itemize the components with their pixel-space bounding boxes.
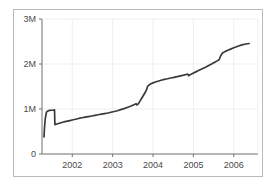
- chart-figure: 01M2M3M20022003200420052006: [0, 0, 277, 188]
- x-tick-label-2002: 2002: [62, 160, 82, 170]
- line-chart: 01M2M3M20022003200420052006: [0, 0, 277, 188]
- y-tick-label-3M: 3M: [23, 14, 36, 24]
- x-tick-label-2005: 2005: [183, 160, 203, 170]
- x-tick-label-2004: 2004: [143, 160, 163, 170]
- axis-lines: [42, 19, 258, 154]
- gridlines: [42, 19, 258, 154]
- y-tick-label-2M: 2M: [23, 59, 36, 69]
- tick-marks: [39, 19, 234, 157]
- x-tick-label-2006: 2006: [224, 160, 244, 170]
- tick-labels: 01M2M3M20022003200420052006: [23, 14, 243, 170]
- x-tick-label-2003: 2003: [103, 160, 123, 170]
- y-tick-label-1M: 1M: [23, 104, 36, 114]
- y-tick-label-0: 0: [31, 149, 36, 159]
- data-series: [44, 44, 249, 137]
- series-line-0: [44, 44, 249, 137]
